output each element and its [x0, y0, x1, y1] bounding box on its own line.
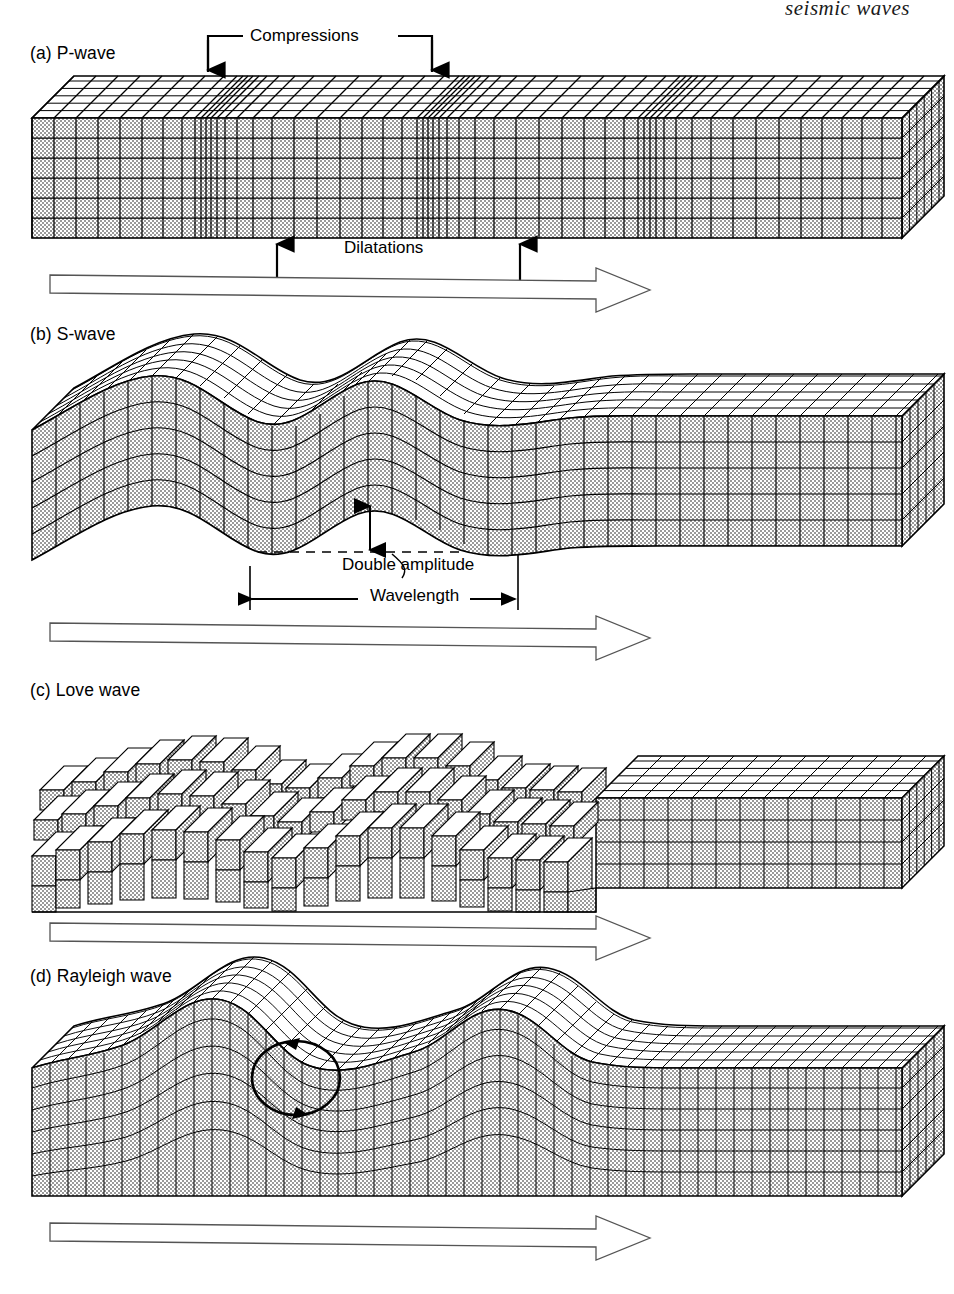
annotation-compressions-arrows — [208, 36, 432, 72]
propagation-arrow-s-wave — [50, 616, 650, 660]
rayleigh-wave-drawing — [0, 958, 954, 1294]
panel-s-wave: (b) S-wave Double amplitude Wavelength — [0, 318, 954, 668]
s-wave-drawing — [0, 318, 954, 668]
panel-rayleigh-wave: (d) Rayleigh wave — [0, 958, 954, 1294]
figure-page: seismic waves (a) P-wave Compressions Di… — [0, 0, 954, 1294]
s-wave-block — [32, 334, 952, 576]
annotation-wavelength-arrows — [250, 554, 518, 610]
propagation-arrow-rayleigh-wave — [50, 1216, 650, 1260]
love-wave-drawing — [0, 668, 954, 968]
panel-p-wave: (a) P-wave Compressions Dilatations — [0, 0, 954, 318]
rayleigh-wave-block — [32, 957, 952, 1204]
panel-love-wave: (c) Love wave — [0, 668, 954, 968]
propagation-arrow-love-wave — [50, 916, 650, 960]
p-wave-block — [32, 76, 944, 238]
p-wave-drawing — [0, 0, 954, 318]
love-wave-block — [32, 734, 944, 912]
propagation-arrow-p-wave — [50, 268, 650, 312]
love-wave-cube-field — [32, 734, 606, 912]
